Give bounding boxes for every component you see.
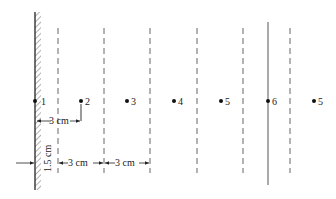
points: 1 2 3 4 5 6 5 [33, 96, 323, 107]
point-label-4: 4 [178, 96, 183, 107]
dimension-label-3cm-2: 3 cm [115, 157, 135, 168]
point-2 [79, 99, 83, 103]
point-5 [219, 99, 223, 103]
dimension-label-3cm-1: 3 cm [68, 157, 88, 168]
point-1 [33, 99, 37, 103]
point-4 [172, 99, 176, 103]
point-5-image [312, 99, 316, 103]
point-label-3: 3 [131, 96, 136, 107]
point-label-2: 2 [85, 96, 90, 107]
point-label-6: 6 [272, 96, 277, 107]
dimension-label-3cm-top: 3 cm [49, 115, 69, 126]
point-label-1: 1 [41, 96, 46, 107]
point-label-5: 5 [225, 96, 230, 107]
point-3 [125, 99, 129, 103]
wave-reflection-diagram: 1 2 3 4 5 6 5 3 cm 1.5 cm 3 cm 3 cm [0, 0, 336, 199]
dimension-label-1-5cm: 1.5 cm [42, 145, 53, 172]
point-label-5-image: 5 [318, 96, 323, 107]
dimension-wall-to-point2: 3 cm [37, 104, 81, 126]
point-6 [266, 99, 270, 103]
